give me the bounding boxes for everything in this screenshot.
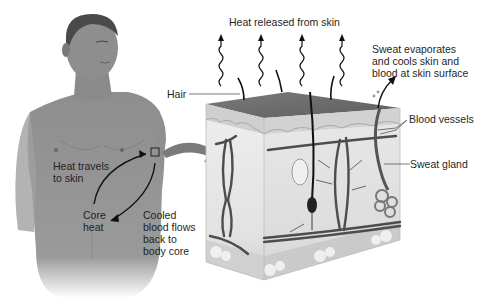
label-hair: Hair (167, 88, 186, 100)
label-cooled-blood: Cooled blood flows back to body core (143, 209, 196, 257)
label-heat-released: Heat released from skin (229, 16, 340, 28)
label-sweat-gland: Sweat gland (410, 158, 468, 170)
label-sweat-evaporates: Sweat evaporates and cools skin and bloo… (372, 43, 468, 79)
label-heat-travels: Heat travels to skin (53, 160, 109, 184)
label-core-heat: Core heat (83, 209, 106, 233)
skin-cross-section (206, 70, 400, 280)
thermoregulation-diagram: Heat released from skin Hair Sweat evapo… (0, 0, 489, 307)
label-blood-vessels: Blood vessels (409, 113, 474, 125)
